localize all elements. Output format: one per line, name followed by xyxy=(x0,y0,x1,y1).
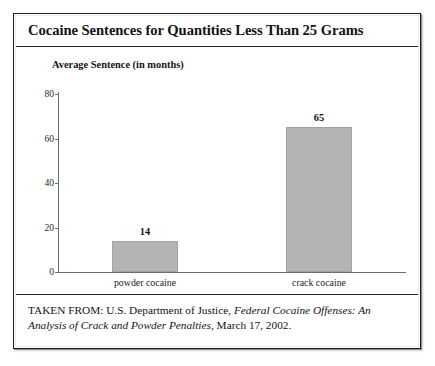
y-axis-tick-mark xyxy=(55,228,58,229)
figure-frame: Cocaine Sentences for Quantities Less Th… xyxy=(13,13,421,349)
source-prefix: TAKEN FROM: U.S. Department of Justice, xyxy=(28,304,234,316)
source-suffix: , March 17, 2002. xyxy=(211,319,291,331)
bar-chart-plot: 020406080 1465 powder cocainecrack cocai… xyxy=(14,14,420,348)
y-axis-tick-label: 40 xyxy=(26,178,54,188)
y-axis-tick-label: 0 xyxy=(26,267,54,277)
y-axis-tick-label: 60 xyxy=(26,134,54,144)
source-divider xyxy=(15,294,419,295)
y-axis-tick-label: 80 xyxy=(26,89,54,99)
x-axis-line xyxy=(58,272,406,273)
y-axis-tick-mark xyxy=(55,94,58,95)
y-axis-line xyxy=(58,92,59,273)
y-axis-tick-label: 20 xyxy=(26,223,54,233)
x-axis-label-powder-cocaine: powder cocaine xyxy=(58,277,232,288)
y-axis-tick-mark xyxy=(55,272,58,273)
y-axis-tick-mark xyxy=(55,139,58,140)
x-axis-label-crack-cocaine: crack cocaine xyxy=(232,277,406,288)
source-note: TAKEN FROM: U.S. Department of Justice, … xyxy=(28,303,410,333)
y-axis-tick-mark xyxy=(55,183,58,184)
bar-value-label: 65 xyxy=(286,113,352,123)
bar-crack-cocaine xyxy=(286,127,352,272)
bar-value-label: 14 xyxy=(112,227,178,237)
bar-powder-cocaine xyxy=(112,241,178,272)
